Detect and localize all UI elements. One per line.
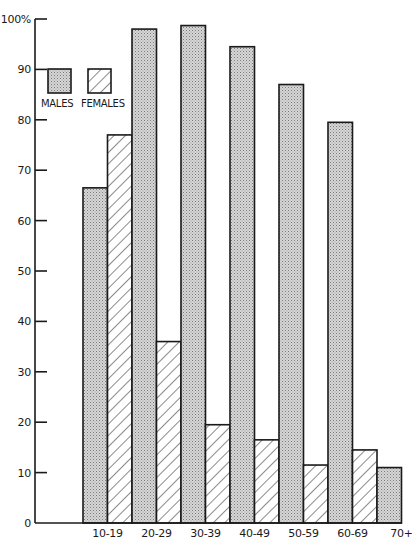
y-tick-label: 90 bbox=[18, 63, 32, 76]
x-tick-label: 20-29 bbox=[141, 527, 172, 540]
bar-males-20-29 bbox=[132, 29, 157, 523]
bar-females-10-19 bbox=[108, 135, 133, 523]
bar-females-60-69 bbox=[353, 450, 378, 523]
x-tick-label: 70+ bbox=[390, 527, 412, 540]
y-tick-label: 50 bbox=[18, 265, 32, 278]
bar-males-40-49 bbox=[230, 47, 255, 523]
y-tick-label: 30 bbox=[18, 366, 32, 379]
bar-males-50-59 bbox=[279, 85, 304, 523]
x-tick-label: 50-59 bbox=[288, 527, 319, 540]
legend-label-females: FEMALES bbox=[81, 98, 125, 109]
y-tick-label: 70 bbox=[18, 164, 32, 177]
y-tick-label: 10 bbox=[18, 467, 32, 480]
x-axis-labels: 10-1920-2930-3940-4950-5960-6970+ bbox=[92, 527, 412, 540]
bar-females-40-49 bbox=[255, 440, 280, 523]
legend-label-males: MALES bbox=[41, 98, 73, 109]
y-axis-ticks: 0102030405060708090100% bbox=[1, 13, 47, 530]
y-tick-label: 40 bbox=[18, 315, 32, 328]
x-tick-label: 30-39 bbox=[190, 527, 221, 540]
legend-swatch-males bbox=[48, 69, 71, 93]
bar-males-10-19 bbox=[83, 188, 108, 523]
x-tick-label: 10-19 bbox=[92, 527, 123, 540]
x-tick-label: 40-49 bbox=[239, 527, 270, 540]
bar-males-60-69 bbox=[328, 122, 353, 523]
y-tick-label: 80 bbox=[18, 114, 32, 127]
bar-females-20-29 bbox=[157, 342, 182, 523]
y-tick-label: 100% bbox=[1, 13, 31, 26]
bar-males-30-39 bbox=[181, 26, 206, 523]
bars-group bbox=[83, 26, 402, 523]
bar-males-70+ bbox=[377, 468, 402, 523]
bar-females-50-59 bbox=[304, 465, 329, 523]
y-tick-label: 0 bbox=[24, 517, 31, 530]
legend: MALES FEMALES bbox=[41, 69, 125, 109]
bar-females-30-39 bbox=[206, 425, 231, 523]
y-tick-label: 20 bbox=[18, 416, 32, 429]
y-tick-label: 60 bbox=[18, 215, 32, 228]
bar-chart: 0102030405060708090100% 10-1920-2930-394… bbox=[0, 0, 412, 549]
x-tick-label: 60-69 bbox=[337, 527, 368, 540]
legend-swatch-females bbox=[88, 69, 111, 93]
